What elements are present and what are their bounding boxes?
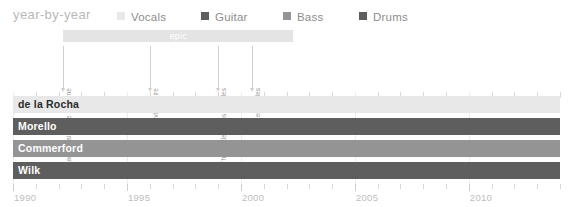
member-name-label: de la Rocha: [18, 96, 79, 113]
axis-tick: [127, 184, 128, 191]
axis-tick: [173, 184, 174, 189]
axis-tick: [514, 184, 515, 189]
axis-tick: [492, 184, 493, 189]
axis-tick: [400, 184, 401, 189]
axis-tick: [355, 184, 356, 191]
chart-header: year-by-year VocalsGuitarBassDrums: [0, 0, 572, 28]
legend-item-guitar[interactable]: Guitar: [201, 8, 248, 24]
legend-swatch-bass-icon: [283, 12, 291, 20]
member-row[interactable]: Commerford: [13, 140, 560, 157]
axis-tick: [264, 184, 265, 189]
member-row[interactable]: Wilk: [13, 162, 560, 179]
axis-tick: [469, 184, 470, 191]
legend-swatch-drums-icon: [359, 12, 367, 20]
axis-tick: [378, 184, 379, 189]
legend-item-bass[interactable]: Bass: [283, 8, 323, 24]
member-bar-vocals: [13, 96, 560, 113]
member-row[interactable]: de la Rocha: [13, 96, 560, 113]
member-bar-drums: [13, 162, 560, 179]
axis-tick: [560, 184, 561, 189]
member-name-label: Commerford: [18, 140, 83, 157]
axis-tick: [104, 184, 105, 189]
year-by-year-chart: year-by-year VocalsGuitarBassDrums epic …: [0, 0, 572, 207]
axis-tick: [537, 184, 538, 189]
member-name-label: Wilk: [18, 162, 40, 179]
axis-tick-label: 2005: [356, 192, 378, 203]
page-title: year-by-year: [13, 7, 91, 22]
axis-tick: [150, 184, 151, 189]
album-marker-stem: [218, 46, 219, 88]
x-axis: 19901995200020052010: [13, 184, 560, 207]
axis-tick-label: 1990: [14, 192, 36, 203]
axis-tick-label: 1995: [128, 192, 150, 203]
era-band-epic: epic: [63, 30, 293, 42]
axis-tick: [309, 184, 310, 189]
axis-tick: [241, 184, 242, 191]
plot-area: de la RochaMorelloCommerfordWilk: [13, 92, 560, 184]
album-marker-stem: [252, 46, 253, 88]
axis-tick-label: 2010: [470, 192, 492, 203]
album-marker-stem: [63, 46, 64, 88]
legend-swatch-guitar-icon: [201, 12, 209, 20]
axis-tick: [423, 184, 424, 189]
axis-tick: [13, 184, 14, 191]
legend-item-drums[interactable]: Drums: [359, 8, 408, 24]
member-bar-bass: [13, 140, 560, 157]
legend-item-label: Vocals: [131, 9, 166, 25]
album-marker-stem: [150, 46, 151, 88]
axis-tick-label: 2000: [242, 192, 264, 203]
legend-item-vocals[interactable]: Vocals: [117, 8, 166, 24]
era-band-label: epic: [63, 30, 293, 42]
member-name-label: Morello: [18, 118, 57, 135]
legend-swatch-vocals-icon: [117, 12, 125, 20]
member-bar-guitar: [13, 118, 560, 135]
axis-tick: [332, 184, 333, 189]
legend-item-label: Bass: [297, 9, 323, 25]
axis-tick: [446, 184, 447, 189]
member-row[interactable]: Morello: [13, 118, 560, 135]
axis-tick: [287, 184, 288, 189]
legend-item-label: Guitar: [215, 9, 248, 25]
axis-tick: [59, 184, 60, 189]
axis-tick: [81, 184, 82, 189]
legend-item-label: Drums: [373, 9, 408, 25]
gridline: [560, 92, 561, 98]
axis-tick: [218, 184, 219, 189]
axis-tick: [195, 184, 196, 189]
axis-tick: [36, 184, 37, 189]
